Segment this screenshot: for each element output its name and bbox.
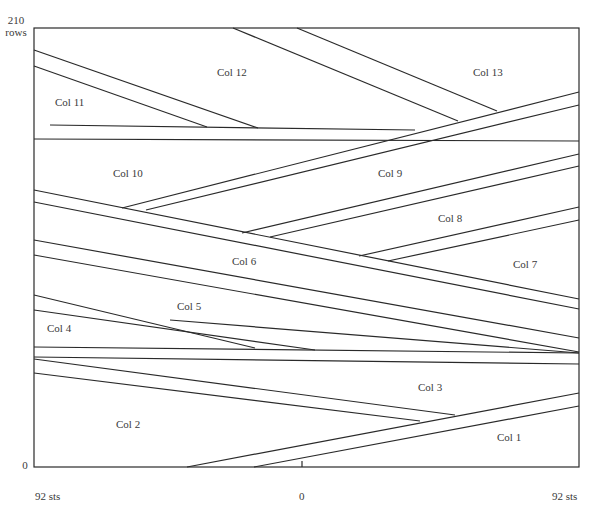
chart-line <box>50 125 415 130</box>
x-axis-right-label: 92 sts <box>552 490 577 502</box>
x-axis-left-label: 92 sts <box>35 490 60 502</box>
y-axis-top-label: 210 rows <box>2 14 30 38</box>
y-axis-unit: rows <box>2 26 30 38</box>
column-label: Col 7 <box>513 258 537 270</box>
chart-lines <box>34 28 579 467</box>
chart-line <box>34 139 579 141</box>
chart-line <box>359 207 579 256</box>
column-label: Col 1 <box>497 431 521 443</box>
column-label: Col 4 <box>47 322 71 334</box>
chart-line <box>254 406 579 467</box>
column-label: Col 13 <box>473 66 503 78</box>
chart-line <box>34 373 420 421</box>
chart-line <box>388 220 579 261</box>
chart-line <box>34 190 579 299</box>
chart-line <box>187 393 579 467</box>
chart-line <box>233 28 458 121</box>
chart-line <box>242 154 579 233</box>
chart-line <box>34 255 579 352</box>
chart-line <box>297 28 497 111</box>
y-axis-max: 210 <box>2 14 30 26</box>
chart-frame <box>34 28 579 467</box>
column-label: Col 5 <box>177 300 201 312</box>
chart-line <box>34 50 258 128</box>
y-axis-zero: 0 <box>20 459 30 471</box>
chart-line <box>146 105 579 210</box>
chart-line <box>270 166 579 237</box>
column-label: Col 8 <box>438 212 462 224</box>
column-label: Col 6 <box>232 255 256 267</box>
column-label: Col 9 <box>378 167 402 179</box>
column-label: Col 11 <box>55 96 84 108</box>
chart-line <box>170 320 579 353</box>
column-label: Col 3 <box>418 381 442 393</box>
chart-line <box>122 92 579 208</box>
column-label: Col 2 <box>116 418 140 430</box>
chart-line <box>34 359 455 415</box>
column-label: Col 10 <box>113 167 143 179</box>
chart-line <box>34 310 315 350</box>
chart-line <box>34 357 579 364</box>
chart-line <box>34 347 579 353</box>
chart-line <box>34 240 579 338</box>
column-label: Col 12 <box>217 66 247 78</box>
x-axis-center-label: 0 <box>299 490 305 502</box>
